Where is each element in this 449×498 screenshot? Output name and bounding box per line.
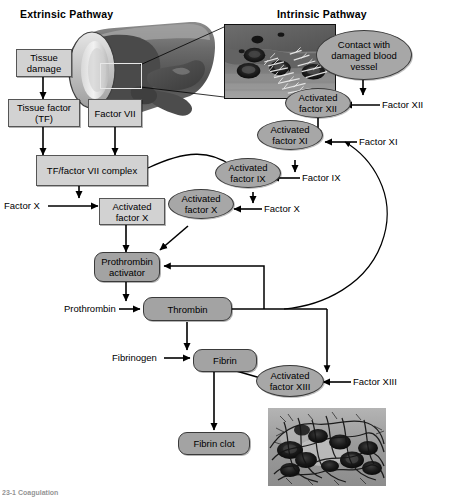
figure-caption: 23-1 Coagulation: [2, 489, 58, 496]
label-factor-x-intrinsic: Factor X: [264, 203, 300, 214]
coagulation-cascade-figure: Extrinsic Pathway Intrinsic Pathway: [0, 0, 449, 498]
node-fibrin[interactable]: Fibrin: [193, 349, 257, 372]
node-activated-factor-xi[interactable]: Activated factor XI: [257, 120, 323, 150]
label-factor-xiii: Factor XIII: [353, 376, 397, 387]
fibrin-clot-micrograph: [268, 408, 386, 486]
node-tf-factor-vii-complex[interactable]: TF/factor VII complex: [36, 155, 148, 186]
label-factor-x-extrinsic: Factor X: [4, 200, 40, 211]
node-fibrin-clot[interactable]: Fibrin clot: [178, 432, 250, 455]
label-factor-xii: Factor XII: [382, 99, 423, 110]
vessel-callout-rectangle: [100, 63, 142, 89]
node-activated-factor-ix[interactable]: Activated factor IX: [215, 158, 281, 188]
label-prothrombin: Prothrombin: [64, 303, 116, 314]
node-activated-factor-xiii[interactable]: Activated factor XIII: [256, 365, 324, 397]
node-tissue-damage[interactable]: Tissue damage: [16, 49, 72, 77]
node-contact-damaged-blood-vessel[interactable]: Contact with damaged blood vessel: [316, 30, 412, 80]
node-thrombin[interactable]: Thrombin: [143, 297, 232, 321]
intrinsic-pathway-title: Intrinsic Pathway: [277, 8, 367, 20]
node-activated-factor-x-intrinsic[interactable]: Activated factor X: [168, 189, 234, 219]
label-factor-ix: Factor IX: [302, 172, 341, 183]
node-activated-factor-x-extrinsic[interactable]: Activated factor X: [99, 198, 165, 225]
node-activated-factor-xii[interactable]: Activated factor XII: [285, 88, 351, 118]
label-factor-xi: Factor XI: [359, 136, 398, 147]
node-prothrombin-activator[interactable]: Prothrombin activator: [94, 252, 160, 282]
label-fibrinogen: Fibrinogen: [112, 352, 157, 363]
node-factor-vii[interactable]: Factor VII: [88, 99, 142, 127]
node-tissue-factor[interactable]: Tissue factor (TF): [8, 99, 80, 127]
